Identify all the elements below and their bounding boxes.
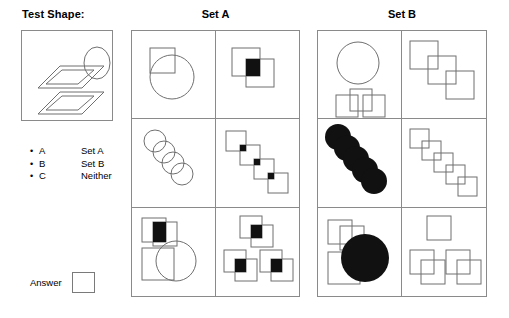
set-a-cell-2-figure	[216, 31, 300, 119]
ellipse-icon	[84, 47, 110, 79]
square-icon	[150, 48, 175, 73]
overlap-fill-icon	[251, 225, 262, 238]
circle-icon	[337, 42, 379, 84]
square-icon	[457, 260, 481, 284]
parallelogram-outer-lower-icon	[38, 92, 104, 114]
set-a-cell-6-figure	[216, 208, 300, 296]
set-a-cell-3-figure	[132, 119, 216, 207]
set-b-cell-2-figure	[402, 31, 486, 119]
set-a-cell-4	[216, 119, 300, 207]
test-shape-box	[21, 30, 113, 121]
set-a-cell-2	[216, 31, 300, 119]
overlap-fill-icon	[268, 173, 274, 179]
legend-bullet-c: •	[30, 171, 39, 183]
set-b-cell-5	[318, 208, 402, 296]
circle-icon	[150, 55, 194, 99]
filled-circle-icon	[361, 168, 387, 194]
square-icon	[410, 41, 438, 69]
parallelogram-outer-icon	[38, 66, 104, 88]
set-a-title: Set A	[131, 8, 300, 20]
set-a-cell-5	[132, 208, 216, 296]
square-icon	[427, 216, 451, 240]
square-icon	[434, 153, 453, 172]
set-b-title: Set B	[317, 8, 487, 20]
square-icon	[428, 56, 456, 84]
legend-key-a: A	[39, 145, 81, 157]
overlap-fill-icon	[254, 159, 260, 165]
square-icon	[446, 165, 465, 184]
set-b-cell-2	[402, 31, 486, 119]
circle-icon	[156, 241, 196, 281]
set-b-cell-1	[318, 31, 402, 119]
set-a-cell-3	[132, 119, 216, 207]
overlap-fill-icon	[246, 59, 260, 76]
overlap-fill-icon	[153, 222, 166, 242]
square-icon	[422, 141, 441, 160]
legend-bullet-b: •	[30, 159, 39, 171]
test-shape-figure	[22, 31, 112, 120]
legend-item-a: • A Set A	[30, 145, 112, 158]
legend: • A Set A • B Set B • C Neither	[30, 145, 112, 183]
square-icon	[421, 260, 445, 284]
set-b-cell-6-figure	[402, 208, 486, 296]
set-b-cell-6	[402, 208, 486, 296]
square-icon	[350, 89, 372, 111]
set-a-cell-1	[132, 31, 216, 119]
test-shape-title: Test Shape:	[22, 8, 85, 20]
square-icon	[410, 129, 429, 148]
square-icon	[458, 177, 477, 196]
legend-key-c: C	[39, 170, 81, 182]
square-icon	[446, 71, 474, 99]
set-b-cell-3	[318, 119, 402, 207]
set-a-cell-1-figure	[132, 31, 216, 119]
overlap-fill-icon	[235, 259, 246, 272]
legend-value-c: Neither	[81, 170, 112, 182]
square-icon	[363, 95, 385, 117]
legend-key-b: B	[39, 158, 81, 170]
legend-item-c: • C Neither	[30, 170, 112, 183]
set-b-cell-4	[402, 119, 486, 207]
legend-value-a: Set A	[81, 145, 104, 157]
set-a-cell-4-figure	[216, 119, 300, 207]
answer-row: Answer	[30, 272, 95, 293]
set-a-grid	[131, 30, 300, 297]
answer-label: Answer	[30, 277, 62, 288]
legend-bullet-a: •	[30, 146, 39, 158]
set-a-cell-6	[216, 208, 300, 296]
answer-input[interactable]	[72, 272, 95, 293]
legend-value-b: Set B	[81, 158, 104, 170]
overlap-fill-icon	[240, 145, 246, 151]
overlap-fill-icon	[271, 259, 282, 272]
square-icon	[410, 250, 434, 274]
set-b-grid	[317, 30, 487, 297]
set-a-cell-5-figure	[132, 208, 216, 296]
set-b-cell-3-figure	[318, 119, 402, 207]
set-b-cell-5-figure	[318, 208, 402, 296]
filled-circle-icon	[341, 234, 389, 282]
square-icon	[336, 95, 358, 117]
legend-item-b: • B Set B	[30, 158, 112, 171]
set-b-cell-1-figure	[318, 31, 402, 119]
square-icon	[446, 250, 470, 274]
set-b-cell-4-figure	[402, 119, 486, 207]
